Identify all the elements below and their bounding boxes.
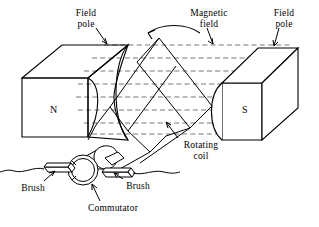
commutator-assembly: [68, 146, 124, 185]
label-commutator: Commutator: [77, 203, 149, 214]
label-north-pole: N: [50, 104, 57, 115]
field-pole-right-block: [222, 48, 298, 140]
label-brush-left: Brush: [14, 183, 52, 194]
field-pole-left-block: [22, 45, 128, 140]
label-magnetic-field: Magnetic field: [178, 8, 240, 29]
right-pole-concave-arc: [212, 83, 223, 140]
brush-left: [44, 163, 75, 172]
label-brush-right: Brush: [119, 181, 157, 192]
label-field-pole-left: Field pole: [60, 8, 112, 29]
label-rotating-coil: Rotating coil: [174, 140, 228, 161]
label-field-pole-right: Field pole: [258, 8, 310, 29]
label-south-pole: S: [242, 104, 248, 115]
dc-machine-diagram: Field pole Magnetic field Field pole Rot…: [0, 0, 319, 227]
